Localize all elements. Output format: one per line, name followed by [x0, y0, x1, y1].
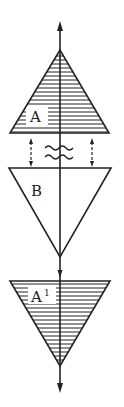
- mid-arrowhead-icon: [58, 270, 63, 278]
- triangle-a: A: [0, 50, 124, 133]
- triangle-a1: A 1: [0, 281, 124, 366]
- top-arrowhead-icon: [57, 21, 63, 31]
- label-a: A: [29, 108, 41, 126]
- dashed-double-arrow-right: [90, 138, 94, 167]
- diagram-canvas: A B A 1: [0, 0, 124, 407]
- label-b: B: [31, 182, 42, 200]
- label-a1: A: [30, 288, 42, 306]
- dashed-double-arrow-left: [29, 138, 33, 167]
- bottom-arrowhead-icon: [57, 383, 63, 393]
- hatching-a: [0, 56, 124, 132]
- label-a1-superscript: 1: [44, 288, 50, 298]
- wavy-lines-icon: [45, 146, 73, 159]
